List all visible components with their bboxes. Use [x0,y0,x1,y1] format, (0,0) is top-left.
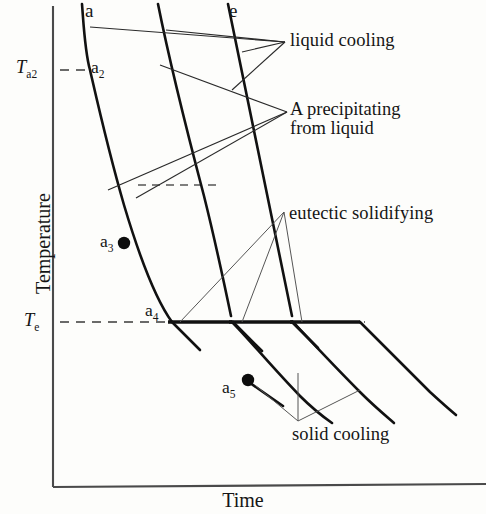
ytick-Ta2-symbol: T [16,57,26,77]
leader-liquid-cooling-3 [242,42,285,52]
leader-solid-cooling-3 [298,390,360,421]
branch-segment-a [172,322,200,350]
point-label-a3: a3 [100,231,114,254]
ytick-Te-symbol: T [24,310,34,330]
ytick-Te-sub: e [34,321,39,333]
curve-a [82,4,172,322]
leader-liquid-cooling-2 [166,30,285,42]
ytick-Ta2-sub2: 2 [31,68,37,80]
leader-a-precipitating-1 [160,65,287,112]
branch-segment-middle [233,322,262,351]
annotation-liquid-cooling: liquid cooling [290,30,395,51]
curve-tag-e: e [229,0,237,22]
y-axis-label: Temperature [32,154,55,334]
leader-eutectic-2 [242,212,284,322]
ytick-Ta2: Ta2 [16,57,37,80]
leader-a-precipitating-2 [108,112,287,190]
annotation-a-precipitating-line1: A precipitating [290,100,400,119]
x-axis-label: Time [0,489,486,512]
figure-cooling-curves: Temperature Time Ta2 Te a e a2 a3 a4 a5 … [0,0,486,514]
point-label-a2: a2 [91,57,105,80]
leader-liquid-cooling-1 [90,27,285,42]
annotation-a-precipitating-line2: from liquid [290,119,400,138]
solid-cooling-e [360,322,456,415]
curve-e [228,4,292,316]
x-axis [53,484,486,487]
point-label-a4: a4 [145,300,159,323]
marker-a5 [242,374,254,386]
leader-eutectic-1 [180,212,284,322]
curve-tag-a: a [85,0,93,22]
leader-solid-cooling-1 [256,386,298,421]
curve-middle [158,4,231,316]
leader-eutectic-3 [284,212,302,322]
cooling-curve-plot [0,0,486,514]
branch-segment-e [292,322,318,348]
annotation-solid-cooling: solid cooling [292,424,389,445]
ytick-Te: Te [24,310,39,333]
point-label-a5: a5 [222,377,236,400]
annotation-a-precipitating: A precipitating from liquid [290,100,400,138]
marker-a3 [118,237,130,249]
annotation-eutectic-solidifying: eutectic solidifying [289,203,433,224]
